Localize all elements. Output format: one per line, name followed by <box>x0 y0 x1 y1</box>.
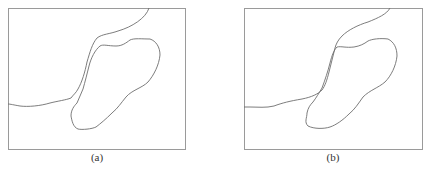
panel-a-boundary-curve <box>8 8 149 106</box>
panel-a <box>8 8 186 150</box>
panel-b <box>244 8 423 150</box>
panel-b-frame <box>245 9 423 150</box>
subfigure-label-a: (a) <box>77 150 117 164</box>
panel-a-blob-region <box>71 39 160 130</box>
subfigure-label-b: (b) <box>313 150 353 164</box>
figure-caption-cropped <box>4 172 427 177</box>
panel-a-frame <box>9 9 186 150</box>
panel-b-blob-region <box>306 39 397 129</box>
figure-canvas <box>0 0 431 177</box>
figure: (a) (b) <box>0 0 431 177</box>
